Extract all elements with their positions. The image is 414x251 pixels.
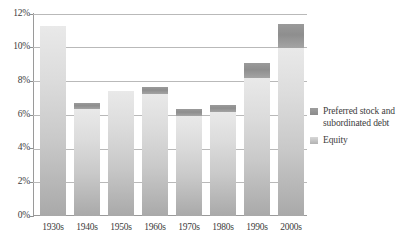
gridline-12 [33,14,307,15]
y-axis-labels: 12% 10% 8% 6% 4% 2% 0% [0,0,30,251]
gridline-10 [33,47,307,48]
y-tick-label-6: 6% [2,110,30,120]
bar-segment-preferred-1980s [210,105,236,112]
x-tick-label-2000s: 2000s [269,222,313,233]
y-tick-label-2: 2% [2,177,30,187]
legend-entry-preferred: Preferred stock and subordinated debt [310,106,414,129]
bar-segment-equity-1960s [142,94,168,216]
y-tick-label-8: 8% [2,76,30,86]
y-tick-label-10: 10% [2,42,30,52]
y-tick-label-4: 4% [2,143,30,153]
y-tick-label-12: 12% [2,9,30,19]
bar-segment-equity-1980s [210,112,236,216]
preferred-swatch-icon [310,108,318,115]
bar-segment-equity-1990s [244,78,270,216]
bar-segment-equity-1940s [74,109,100,216]
equity-swatch-icon [310,137,318,144]
bar-segment-preferred-1940s [74,103,100,109]
bar-segment-preferred-1990s [244,63,270,78]
bar-segment-preferred-1970s [176,109,202,116]
legend-label-preferred: Preferred stock and subordinated debt [323,106,395,128]
legend-label-equity: Equity [323,135,348,145]
plot-area [33,14,307,216]
bar-chart: 12% 10% 8% 6% 4% 2% 0% [0,0,414,251]
bar-segment-equity-1950s [108,91,134,216]
bar-segment-equity-2000s [278,48,304,216]
chart-legend: Preferred stock and subordinated debt Eq… [310,106,414,153]
bar-segment-preferred-2000s [278,24,304,48]
bar-segment-equity-1930s [40,26,66,216]
legend-entry-equity: Equity [310,135,414,147]
y-tick-label-0: 0% [2,211,30,221]
bar-segment-preferred-1960s [142,87,168,94]
bar-segment-equity-1970s [176,116,202,216]
x-axis-labels: 1930s 1940s 1950s 1960s 1970s 1980s 1990… [33,219,307,239]
